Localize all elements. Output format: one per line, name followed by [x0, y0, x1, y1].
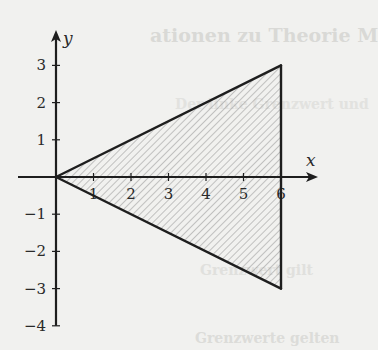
y-tick-label: −4 [24, 317, 46, 335]
x-tick-label: 5 [239, 185, 249, 203]
y-tick-label: −2 [24, 242, 46, 260]
x-axis-label: x [306, 150, 316, 170]
y-tick-label: 2 [36, 94, 46, 112]
x-tick-label: 3 [164, 185, 174, 203]
y-tick-label: 3 [36, 56, 46, 74]
x-tick-label: 2 [126, 185, 136, 203]
y-tick-label: −3 [24, 280, 46, 298]
y-tick-label: 1 [36, 131, 46, 149]
x-tick-label: 4 [201, 185, 211, 203]
y-tick-label: −1 [24, 205, 46, 223]
y-axis-label: y [62, 28, 73, 48]
